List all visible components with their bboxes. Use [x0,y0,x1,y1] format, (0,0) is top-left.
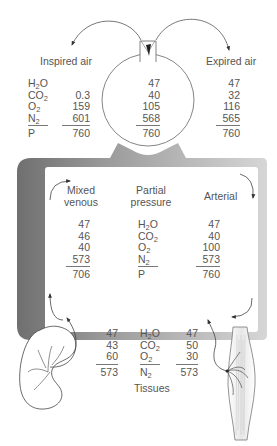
arterial-h2o: 47 [196,219,220,231]
inspired-gas-labels: H2O CO2 O2 N2 P [28,78,48,140]
inspired-p: 760 [62,128,90,140]
expired-air-label: Expired air [206,55,256,67]
arterial-p: 760 [196,269,220,281]
inspired-h2o [62,78,90,90]
alveolar-o2: 105 [136,101,160,113]
partial-pressure-line2: pressure [128,196,174,208]
tissue-right-h2o: 47 [176,328,198,340]
mixed-venous-values: 47 46 40 573 706 [66,219,90,281]
alveolar-p: 760 [136,128,160,140]
tissue-right-o2: 30 [176,351,198,365]
venous-n2: 573 [66,254,90,268]
arterial-n2: 573 [196,254,220,268]
inspired-air-arrow [72,21,141,45]
tissues-right-values: 47 50 30 573 [176,328,198,378]
gas-n2: N2 [28,113,48,127]
inspired-air-label: Inspired air [40,55,92,67]
venous-o2: 40 [66,242,90,254]
tissues-left-values: 47 43 60 573 [96,328,118,378]
alveolar-n2: 568 [136,113,160,127]
venous-h2o: 47 [66,219,90,231]
partial-pressure-line1: Partial [128,184,174,196]
alveolar-h2o: 47 [136,78,160,90]
arterial-o2: 100 [196,242,220,254]
gas-p: P [138,269,158,281]
alveolar-values: 47 40 105 568 760 [136,78,160,140]
expired-air-arrow [156,19,229,50]
expired-values: 47 32 116 565 760 [216,78,240,140]
inspired-o2: 159 [62,101,90,113]
tissue-left-o2: 60 [96,351,118,365]
blood-gas-labels: H2O CO2 O2 N2 P [138,219,158,281]
venous-p: 706 [66,269,90,281]
expired-p: 760 [216,128,240,140]
inspired-n2: 601 [62,113,90,127]
expired-o2: 116 [216,101,240,113]
arterial-label: Arterial [204,190,237,202]
gas-p: P [28,128,48,140]
tissue-gas-labels: H2O CO2 O2 N2 [140,328,160,378]
gas-n2: N2 [140,367,160,379]
gas-o2: O2 [140,351,160,365]
tissue-left-h2o: 47 [96,328,118,340]
tissues-label: Tissues [134,382,170,394]
gas-n2: N2 [138,254,158,268]
mixed-venous-line2: venous [60,196,102,208]
inspired-values: 0.3 159 601 760 [62,78,90,140]
tissue-left-n2: 573 [96,367,118,379]
arterial-values: 47 40 100 573 760 [196,219,220,281]
expired-n2: 565 [216,113,240,127]
tissue-right-n2: 573 [176,367,198,379]
mixed-venous-line1: Mixed [60,184,102,196]
partial-pressure-label: Partial pressure [128,184,174,208]
expired-h2o: 47 [216,78,240,90]
mixed-venous-label: Mixed venous [60,184,102,208]
